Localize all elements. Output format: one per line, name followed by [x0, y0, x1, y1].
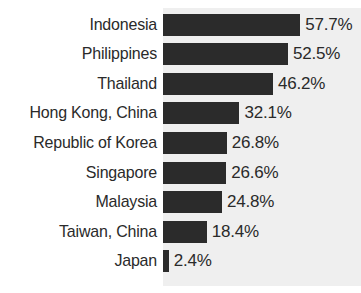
- bar-value-label: 26.6%: [231, 163, 278, 183]
- bar-and-value: 32.1%: [163, 99, 292, 128]
- bar: [163, 132, 227, 154]
- bar-and-value: 18.4%: [163, 217, 259, 246]
- bar-value-label: 26.8%: [232, 133, 279, 153]
- category-label: Indonesia: [9, 15, 157, 35]
- bar-row: Thailand46.2%: [0, 69, 361, 98]
- category-label: Republic of Korea: [9, 133, 157, 153]
- bar-and-value: 52.5%: [163, 40, 340, 69]
- category-label: Singapore: [9, 163, 157, 183]
- category-label: Taiwan, China: [9, 222, 157, 242]
- bar: [163, 221, 207, 243]
- bar-row: Japan2.4%: [0, 247, 361, 276]
- bar-and-value: 26.6%: [163, 158, 279, 187]
- bar-row: Philippines52.5%: [0, 40, 361, 69]
- bar-row: Hong Kong, China32.1%: [0, 99, 361, 128]
- bar-row: Malaysia24.8%: [0, 188, 361, 217]
- bar-value-label: 46.2%: [278, 74, 325, 94]
- bar-rows-container: Indonesia57.7%Philippines52.5%Thailand46…: [0, 0, 361, 293]
- category-label: Thailand: [9, 74, 157, 94]
- bar-value-label: 57.7%: [305, 15, 352, 35]
- bar-and-value: 46.2%: [163, 69, 325, 98]
- bar: [163, 162, 226, 184]
- bar: [163, 191, 222, 213]
- bar-chart: Indonesia57.7%Philippines52.5%Thailand46…: [0, 0, 361, 293]
- bar-and-value: 57.7%: [163, 10, 353, 39]
- category-label: Hong Kong, China: [9, 103, 157, 123]
- bar-row: Taiwan, China18.4%: [0, 217, 361, 246]
- bar-value-label: 24.8%: [227, 192, 274, 212]
- category-label: Japan: [9, 251, 157, 271]
- bar: [163, 43, 288, 65]
- category-label: Malaysia: [9, 192, 157, 212]
- bar-and-value: 2.4%: [163, 247, 212, 276]
- bar-value-label: 52.5%: [293, 44, 340, 64]
- bar-row: Republic of Korea26.8%: [0, 128, 361, 157]
- category-label: Philippines: [9, 44, 157, 64]
- bar: [163, 14, 300, 36]
- bar-and-value: 26.8%: [163, 128, 279, 157]
- bar: [163, 250, 169, 272]
- bar: [163, 102, 239, 124]
- bar-value-label: 18.4%: [212, 222, 259, 242]
- bar: [163, 73, 273, 95]
- bar-value-label: 2.4%: [174, 251, 212, 271]
- bar-and-value: 24.8%: [163, 188, 274, 217]
- bar-row: Singapore26.6%: [0, 158, 361, 187]
- bar-row: Indonesia57.7%: [0, 10, 361, 39]
- bar-value-label: 32.1%: [244, 103, 291, 123]
